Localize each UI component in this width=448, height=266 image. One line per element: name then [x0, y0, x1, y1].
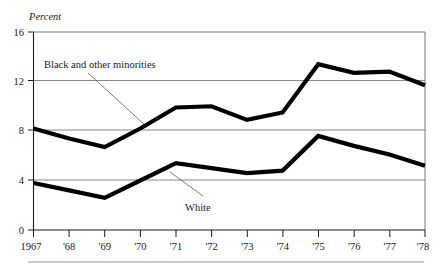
x-tick-label-1976: '76 [348, 241, 360, 252]
x-tick-label-1978: '78 [417, 241, 429, 252]
chart-plot-area: Percent 16 12 8 4 0 [0, 0, 448, 266]
unemployment-rate-line-chart: Percent 16 12 8 4 0 [0, 0, 448, 266]
x-tick-label-1972: '72 [205, 241, 217, 252]
x-tick-label-1974: '74 [277, 241, 290, 252]
y-tick-label-0: 0 [19, 225, 24, 236]
y-tick-label-16: 16 [14, 27, 25, 38]
x-tick-label-1967: 1967 [21, 241, 42, 252]
leader-line-minorities [88, 73, 146, 126]
x-tick-label-1970: '70 [134, 241, 146, 252]
x-tick-label-1977: '77 [384, 241, 396, 252]
y-tick-label-12: 12 [14, 76, 25, 87]
series-annotation-white: White [185, 202, 211, 213]
x-tick-label-1971: '71 [170, 241, 182, 252]
x-tick-label-1973: '73 [241, 241, 253, 252]
series-annotation-minorities: Black and other minorities [44, 59, 156, 70]
y-tick-label-4: 4 [19, 175, 25, 186]
x-tick-label-1975: '75 [312, 241, 324, 252]
y-tick-label-8: 8 [19, 125, 24, 136]
y-axis-unit-label: Percent [28, 11, 62, 22]
x-tick-label-1968: '68 [63, 241, 75, 252]
x-tick-label-1969: '69 [98, 241, 110, 252]
leader-line-white [170, 172, 203, 196]
